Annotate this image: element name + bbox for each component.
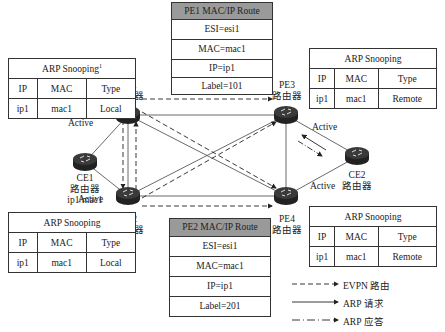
route-esi: ESI=esi1 [170, 237, 270, 257]
router-icon-pe2 [115, 186, 141, 206]
route-esi: ESI=esi1 [172, 20, 272, 40]
link-label-active: Active [78, 194, 103, 205]
node-label-pe4: PE4 路由器 [270, 214, 304, 236]
cell: Local [86, 99, 135, 119]
mac-ip-route-pe1: PE1 MAC/IP Route ESI=esi1 MAC=mac1 IP=ip… [171, 2, 273, 95]
node-name: PE4 [270, 214, 304, 225]
col-header: IP [310, 69, 335, 89]
col-header: IP [310, 227, 335, 247]
mac-ip-route-pe2: PE2 MAC/IP Route ESI=esi1 MAC=mac1 IP=ip… [169, 218, 271, 317]
col-header: Type [378, 69, 437, 89]
col-header: Type [86, 79, 135, 99]
cell: ip1 [310, 89, 335, 109]
cell: Remote [378, 89, 437, 109]
node-label-ce2: CE2 路由器 [340, 170, 374, 192]
router-icon-pe3 [273, 105, 299, 125]
cell: mac1 [37, 99, 86, 119]
link-label-active: Active [312, 122, 337, 133]
cell: mac1 [335, 247, 378, 267]
node-label-pe3: PE3 路由器 [270, 80, 304, 102]
cell: ip1 [9, 99, 38, 119]
arp-table-pe1: ARP Snooping1 IPMACType ip1mac1Local [8, 58, 136, 119]
cell: ip1 [9, 253, 38, 273]
col-header: MAC [335, 227, 378, 247]
node-type: 路由器 [340, 181, 374, 192]
arp-table-title: ARP Snooping [9, 213, 136, 233]
route-label: Label=101 [172, 78, 272, 94]
node-type: 路由器 [270, 225, 304, 236]
route-ip: IP=ip1 [172, 60, 272, 78]
col-header: Type [378, 227, 437, 247]
arp-table-title: ARP Snooping [310, 49, 437, 69]
cell: Remote [378, 247, 437, 267]
legend-evpn-route: EVPN 路由 [343, 278, 390, 292]
route-title: PE1 MAC/IP Route [172, 3, 272, 20]
arp-table-pe4: ARP Snooping IPMACType ip1mac1Remote [309, 206, 437, 267]
col-header: MAC [37, 233, 86, 253]
col-header: Type [86, 233, 135, 253]
col-header: MAC [37, 79, 86, 99]
cell: ip1 [310, 247, 335, 267]
cell: mac1 [37, 253, 86, 273]
node-name: PE3 [270, 80, 304, 91]
arp-table-title: ARP Snooping [310, 207, 437, 227]
col-header: MAC [335, 69, 378, 89]
route-title: PE2 MAC/IP Route [170, 219, 270, 237]
legend-arp-request: ARP 请求 [343, 296, 384, 310]
node-name: CE1 [60, 173, 110, 184]
route-mac: MAC=mac1 [170, 257, 270, 277]
cell: mac1 [335, 89, 378, 109]
node-type: 路由器 [270, 91, 304, 102]
col-header: IP [9, 233, 38, 253]
cell: Local [86, 253, 135, 273]
arp-table-pe2: ARP Snooping IPMACType ip1mac1Local [8, 212, 136, 273]
router-icon-ce1 [72, 152, 98, 172]
route-label: Label=201 [170, 297, 270, 316]
link-label-active: Active [310, 181, 335, 192]
arp-table-title: ARP Snooping1 [9, 59, 136, 79]
legend-arp-response: ARP 应答 [343, 314, 384, 328]
arp-table-pe3: ARP Snooping IPMACType ip1mac1Remote [309, 48, 437, 109]
col-header: IP [9, 79, 38, 99]
router-icon-ce2 [344, 146, 370, 166]
router-icon-pe4 [273, 186, 299, 206]
link-label-active: Active [68, 118, 93, 129]
node-name: CE2 [340, 170, 374, 181]
route-mac: MAC=mac1 [172, 40, 272, 60]
route-ip: IP=ip1 [170, 277, 270, 297]
